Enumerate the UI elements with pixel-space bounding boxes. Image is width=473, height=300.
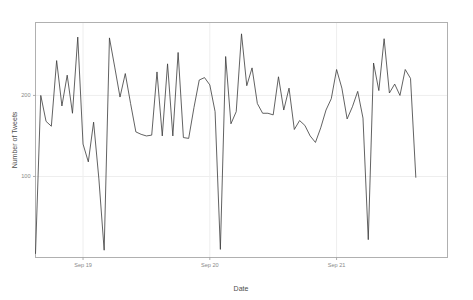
x-tick-label: Sep 20: [201, 262, 219, 268]
x-axis-title: Date: [234, 285, 249, 292]
x-tick-label: Sep 19: [74, 262, 92, 268]
chart-background: [0, 0, 473, 300]
y-tick-label: 100: [21, 173, 30, 179]
y-axis-title: Number of Tweets: [11, 111, 18, 168]
x-tick-label: Sep 21: [328, 262, 346, 268]
line-chart: 100200 Sep 19Sep 20Sep 21 Date Number of…: [0, 0, 473, 300]
y-tick-label: 200: [21, 92, 30, 98]
chart-page: 100200 Sep 19Sep 20Sep 21 Date Number of…: [0, 0, 473, 300]
